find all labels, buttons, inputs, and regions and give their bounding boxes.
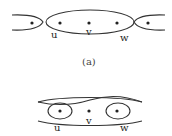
vertex-u-b bbox=[58, 109, 61, 112]
hypergraph-figure: u v w (a) u v w bbox=[0, 0, 172, 136]
vertex-left bbox=[30, 21, 33, 24]
label-w-b: w bbox=[120, 122, 129, 133]
label-v-a: v bbox=[85, 26, 92, 37]
label-v-b: v bbox=[85, 115, 92, 126]
label-u-b: u bbox=[54, 122, 61, 133]
vertex-v-b bbox=[87, 109, 90, 112]
vertices-a bbox=[30, 21, 149, 24]
vertex-w-b bbox=[115, 109, 118, 112]
label-w-a: w bbox=[120, 32, 129, 43]
vertex-w-a bbox=[115, 21, 118, 24]
vertices-b bbox=[58, 109, 118, 112]
caption-a: (a) bbox=[82, 56, 96, 67]
vertex-u-a bbox=[58, 21, 61, 24]
vertex-v-a bbox=[87, 21, 90, 24]
left-edge-lens bbox=[12, 15, 43, 30]
vertex-right bbox=[146, 21, 149, 24]
label-u-a: u bbox=[51, 29, 58, 40]
